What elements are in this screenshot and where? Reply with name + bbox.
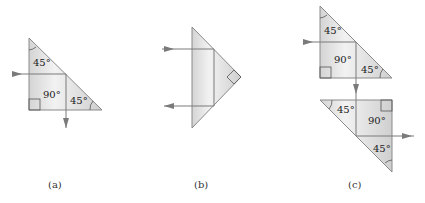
prism-diagram: 45° 90° 45° (a) (b) 45° 90° 45° 45° xyxy=(0,0,425,203)
angle-label: 45° xyxy=(70,95,88,106)
arrow-icon xyxy=(402,133,412,139)
arrow-icon xyxy=(164,103,174,109)
panel-b: (b) xyxy=(162,27,241,190)
arrow-icon xyxy=(303,39,313,45)
arrow-icon xyxy=(353,84,359,94)
arrow-icon xyxy=(12,71,22,77)
panel-c: 45° 90° 45° 45° 90° 45° (c) xyxy=(303,6,414,190)
angle-label: 45° xyxy=(373,143,391,154)
caption-a: (a) xyxy=(48,179,62,190)
caption-b: (b) xyxy=(194,179,208,190)
arrow-icon xyxy=(63,118,69,128)
arrow-icon xyxy=(164,46,174,52)
angle-label: 90° xyxy=(368,115,386,126)
caption-c: (c) xyxy=(348,179,362,190)
prism-b xyxy=(192,27,241,128)
angle-label: 90° xyxy=(43,89,61,100)
angle-label: 90° xyxy=(334,54,352,65)
angle-label: 45° xyxy=(324,25,342,36)
angle-label: 45° xyxy=(337,104,355,115)
angle-label: 45° xyxy=(361,64,379,75)
panel-a: 45° 90° 45° (a) xyxy=(12,38,102,190)
angle-label: 45° xyxy=(33,57,51,68)
